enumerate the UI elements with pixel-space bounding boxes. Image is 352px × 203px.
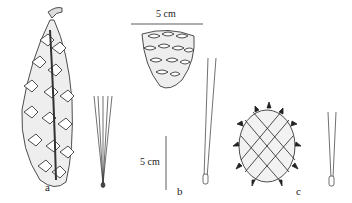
needle-fascicle-c [328,112,336,186]
scale-bar-vertical-label: 5 cm [140,157,160,167]
panel-label-b: b [177,186,183,197]
cone-c [233,102,301,186]
panel-label-c: c [296,186,301,197]
needle-fascicle-a [94,96,112,188]
cone-b [142,30,194,88]
cone-a [22,8,74,187]
scale-bar-horizontal-label: 5 cm [156,9,176,19]
panel-label-a: a [45,182,50,193]
illustration-canvas [0,0,352,203]
needle-fascicle-b [203,58,216,184]
